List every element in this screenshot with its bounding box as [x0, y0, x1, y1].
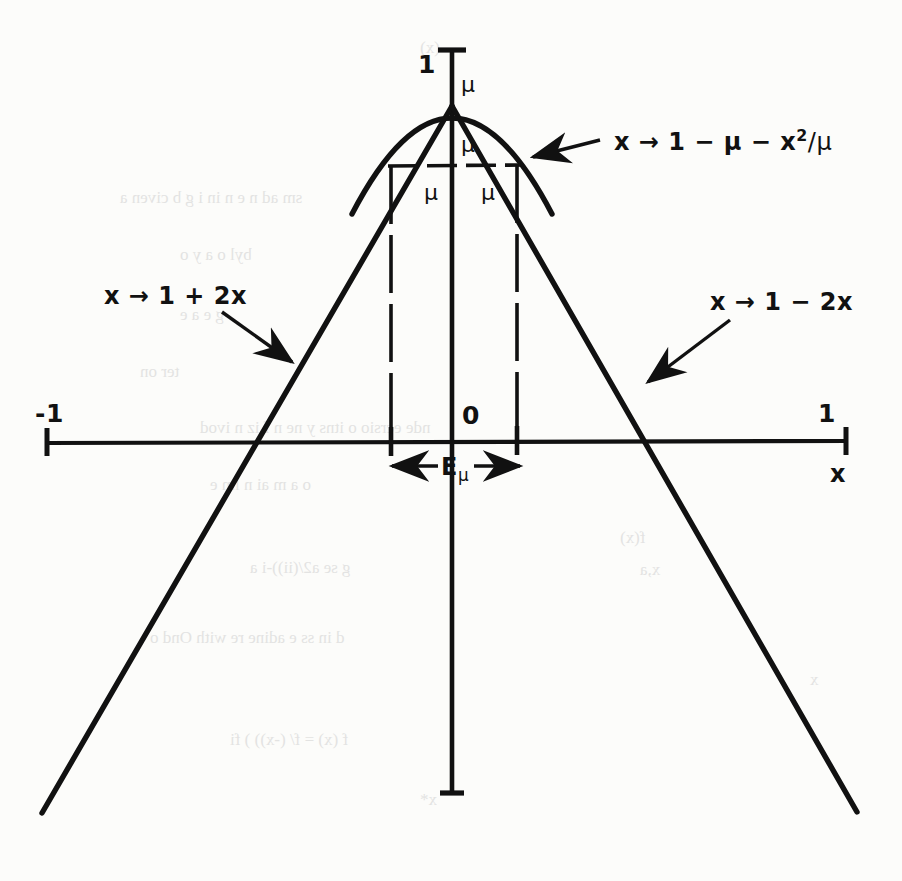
- origin-label: 0: [462, 403, 480, 428]
- x-axis: [46, 427, 848, 456]
- dashed-level-line: [388, 165, 521, 166]
- mu-label-top: μ: [461, 74, 476, 96]
- left-map-label: x → 1 + 2x: [104, 284, 247, 308]
- mu-label-left-lower: μ: [424, 182, 439, 204]
- mu-label-right-lower: μ: [481, 182, 496, 204]
- x-axis-name-label: x: [830, 462, 846, 486]
- figure-canvas: (x) sm ad n e n in i g b civen a byl o a…: [0, 0, 902, 881]
- quadratic-map-label: x → 1 − μ − x2/μ: [614, 128, 832, 154]
- interval-label-base: E: [441, 453, 458, 481]
- interval-label: Eμ: [441, 455, 469, 484]
- right-map-arrow: [648, 320, 730, 382]
- interval-label-subscript: μ: [458, 465, 469, 485]
- y-axis-top-label: 1: [418, 52, 436, 77]
- x-axis-right-label: 1: [818, 401, 836, 426]
- quadratic-map-label-exponent: 2: [796, 126, 808, 145]
- mu-label-middle: μ: [461, 134, 476, 156]
- quadratic-map-arrow: [533, 140, 600, 157]
- x-axis-left-label: -1: [35, 401, 64, 426]
- left-map-arrow: [222, 312, 292, 362]
- tent-map-right-branch: [452, 106, 857, 812]
- quadratic-map-label-suffix: /μ: [808, 128, 832, 156]
- right-map-label: x → 1 − 2x: [710, 290, 853, 314]
- quadratic-map-label-prefix: x → 1 − μ − x: [614, 128, 796, 156]
